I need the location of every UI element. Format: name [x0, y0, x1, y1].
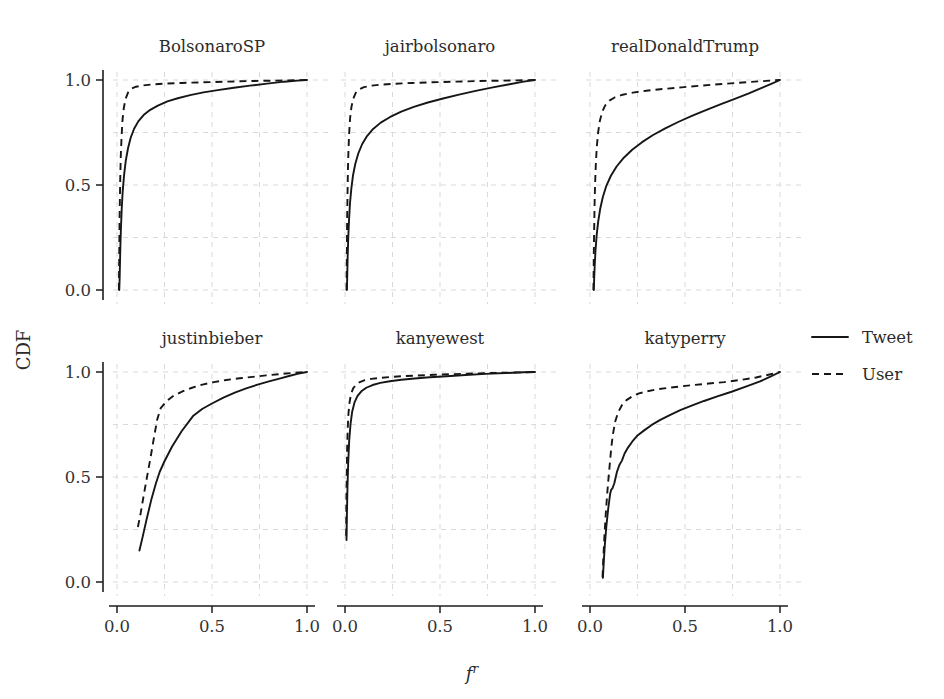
y-axis-label: CDF	[13, 330, 34, 371]
x-tick-label: 0.0	[577, 617, 603, 636]
legend-label-tweet: Tweet	[862, 328, 913, 347]
figure-root: BolsonaroSP0.00.51.0jairbolsonarorealDon…	[0, 0, 944, 699]
panel-title: justinbieber	[160, 329, 263, 348]
y-tick-label: 0.0	[65, 281, 91, 300]
x-tick-label: 1.0	[522, 617, 548, 636]
x-tick-label: 0.5	[199, 617, 225, 636]
panel-title: jairbolsonaro	[383, 37, 496, 56]
y-tick-label: 0.5	[65, 176, 91, 195]
x-tick-label: 0.5	[672, 617, 698, 636]
panel-title: kanyewest	[396, 329, 485, 348]
y-tick-label: 0.5	[65, 468, 91, 487]
x-tick-label: 0.5	[427, 617, 453, 636]
panel-title: katyperry	[644, 329, 726, 348]
x-tick-label: 1.0	[294, 617, 320, 636]
legend-label-user: User	[862, 365, 902, 384]
y-tick-label: 0.0	[65, 573, 91, 592]
panel-title: BolsonaroSP	[159, 37, 265, 56]
figure-background	[0, 0, 944, 699]
x-tick-label: 0.0	[332, 617, 358, 636]
y-tick-label: 1.0	[65, 71, 91, 90]
y-axis-label-group: CDF	[13, 330, 34, 371]
cdf-multipanel-figure: BolsonaroSP0.00.51.0jairbolsonarorealDon…	[0, 0, 944, 699]
x-tick-label: 1.0	[767, 617, 793, 636]
panel-title: realDonaldTrump	[611, 37, 759, 56]
y-tick-label: 1.0	[65, 363, 91, 382]
x-tick-label: 0.0	[104, 617, 130, 636]
